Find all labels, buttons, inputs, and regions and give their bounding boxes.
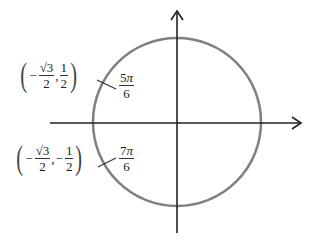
angle-7pi6-label: 7π6: [119, 144, 134, 173]
point-7pi6-coords: ( − √32 , − 12 ): [14, 141, 85, 175]
x-fraction: √32: [39, 61, 55, 90]
angle-5pi6-label: 5π6: [119, 71, 134, 100]
x-fraction: √32: [35, 144, 51, 173]
unit-circle-figure: [0, 0, 320, 242]
y-fraction: 12: [65, 144, 74, 173]
y-fraction: 12: [60, 61, 69, 90]
point-5pi6-coords: ( − √32 , 12 ): [18, 58, 79, 92]
